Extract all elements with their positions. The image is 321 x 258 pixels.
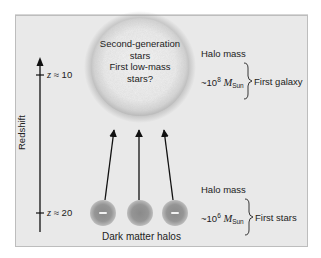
mass-unit: M (223, 213, 232, 224)
dark-matter-halos (90, 200, 188, 226)
arrow-right (164, 130, 173, 200)
redshift-axis (36, 57, 44, 232)
mass-exponent: 6 (217, 212, 221, 219)
axis-arrow-icon (37, 57, 44, 66)
sphere-caption: Second-generation stars First low-mass s… (94, 38, 186, 84)
lower-halo-mass-heading: Halo mass (201, 185, 246, 195)
first-stars-label: First stars (255, 213, 297, 223)
halo-left (90, 200, 116, 226)
mass-unit: M (223, 77, 232, 88)
upper-mass-value: ~108 MSun (201, 76, 244, 89)
halo-right (162, 200, 188, 226)
dark-matter-halos-label: Dark matter halos (102, 232, 181, 242)
approx-symbol: ≈ (54, 207, 59, 218)
formation-arrows (105, 130, 173, 200)
halo-center (127, 200, 153, 226)
approx-symbol: ≈ (54, 69, 59, 80)
z20-label: z ≈ 20 (47, 207, 72, 218)
mass-unit-sub: Sun (232, 218, 244, 225)
z-symbol: z (47, 207, 51, 218)
z-value: 10 (62, 69, 73, 80)
upper-halo-mass-heading: Halo mass (201, 49, 246, 59)
mass-unit-sub: Sun (232, 82, 244, 89)
z10-label: z ≈ 10 (47, 69, 72, 80)
sphere-line-2: stars (94, 50, 186, 62)
sphere-line-4: stars? (94, 73, 186, 85)
mass-prefix: ~10 (201, 213, 217, 224)
sphere-line-3: First low-mass (94, 61, 186, 73)
arrow-left (105, 130, 114, 200)
first-galaxy-label: First galaxy (254, 77, 303, 87)
redshift-axis-label: Redshift (16, 115, 27, 150)
z-value: 20 (62, 207, 73, 218)
brace-lower-icon (245, 199, 253, 235)
mass-prefix: ~10 (201, 77, 217, 88)
brace-upper-icon (244, 63, 252, 99)
z-symbol: z (47, 69, 51, 80)
sphere-line-1: Second-generation (94, 38, 186, 50)
mass-exponent: 8 (217, 76, 221, 83)
lower-mass-value: ~106 MSun (201, 212, 244, 225)
